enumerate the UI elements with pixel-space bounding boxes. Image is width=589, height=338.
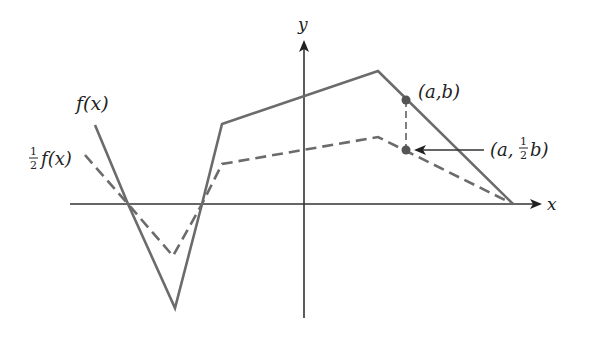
label-point-a-b: (a,b) <box>418 81 460 102</box>
fraction-denominator: 2 <box>520 149 527 162</box>
label-half-f-x: 1 2 f(x) <box>29 145 72 172</box>
point-a-half-b <box>402 146 411 155</box>
fraction-numerator: 1 <box>520 135 527 148</box>
svg-text:(a,: (a, <box>490 139 513 160</box>
fraction-numerator: 1 <box>30 145 37 158</box>
graph-canvas: x y f(x) 1 2 f(x) (a,b) (a, 1 2 b) <box>0 0 589 338</box>
label-point-a-half-b: (a, 1 2 b) <box>490 135 549 162</box>
label-f-x: f(x) <box>74 92 109 114</box>
curve-half-f-x <box>85 137 513 256</box>
x-axis-label: x <box>547 194 557 214</box>
y-axis-label: y <box>297 14 308 34</box>
point-a-b <box>402 96 411 105</box>
fraction-denominator: 2 <box>30 159 37 172</box>
svg-text:f(x): f(x) <box>39 148 72 169</box>
svg-text:b): b) <box>530 139 549 160</box>
